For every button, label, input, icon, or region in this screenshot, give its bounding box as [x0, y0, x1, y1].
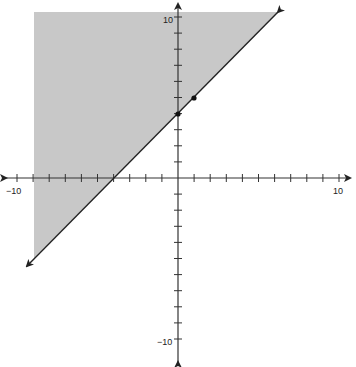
x-max-label: 10 — [333, 186, 343, 196]
point-1-5 — [191, 95, 196, 100]
y-max-label: 10 — [163, 15, 173, 25]
coordinate-plane: −10 10 10 −10 — [0, 0, 356, 367]
point-y-intercept — [175, 111, 180, 116]
y-min-label: −10 — [157, 337, 172, 347]
x-min-label: −10 — [6, 186, 21, 196]
